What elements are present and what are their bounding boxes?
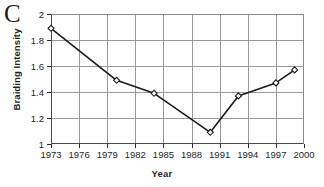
x-axis-tick-label: 1994 xyxy=(237,149,258,160)
y-axis-tick-label: 1.8 xyxy=(31,35,44,46)
y-axis-tick-label: 1.6 xyxy=(31,61,44,72)
x-axis-title: Year xyxy=(0,168,324,179)
x-axis-tick xyxy=(163,144,164,148)
x-axis-tick xyxy=(51,144,52,148)
x-axis-tick xyxy=(276,144,277,148)
x-axis-tick-label: 1997 xyxy=(265,149,286,160)
x-axis-tick xyxy=(79,144,80,148)
data-series-line xyxy=(51,14,304,144)
y-axis-tick-label: 1 xyxy=(39,139,44,150)
plot-area: 11.21.41.61.82 1973197619791982198519881… xyxy=(51,14,304,144)
x-axis-tick xyxy=(192,144,193,148)
x-axis-tick-label: 1982 xyxy=(125,149,146,160)
y-axis-title: Braiding Intensity xyxy=(11,10,22,130)
x-axis-tick xyxy=(220,144,221,148)
x-axis-tick-label: 1979 xyxy=(97,149,118,160)
x-axis-tick-label: 1985 xyxy=(153,149,174,160)
chart-figure: C Braiding Intensity 11.21.41.61.82 1973… xyxy=(0,0,324,187)
y-axis-tick-label: 1.4 xyxy=(31,87,44,98)
x-axis-tick-label: 1991 xyxy=(209,149,230,160)
x-axis-tick xyxy=(107,144,108,148)
series-polyline xyxy=(51,28,295,132)
x-axis-tick-label: 2000 xyxy=(293,149,314,160)
x-axis-tick xyxy=(248,144,249,148)
x-axis-tick-label: 1976 xyxy=(69,149,90,160)
y-axis-tick-label: 1.2 xyxy=(31,113,44,124)
x-axis-tick-label: 1988 xyxy=(181,149,202,160)
x-axis-tick xyxy=(135,144,136,148)
y-axis-tick-label: 2 xyxy=(39,9,44,20)
x-axis-tick xyxy=(304,144,305,148)
series-markers xyxy=(48,25,298,135)
x-axis-tick-label: 1973 xyxy=(40,149,61,160)
